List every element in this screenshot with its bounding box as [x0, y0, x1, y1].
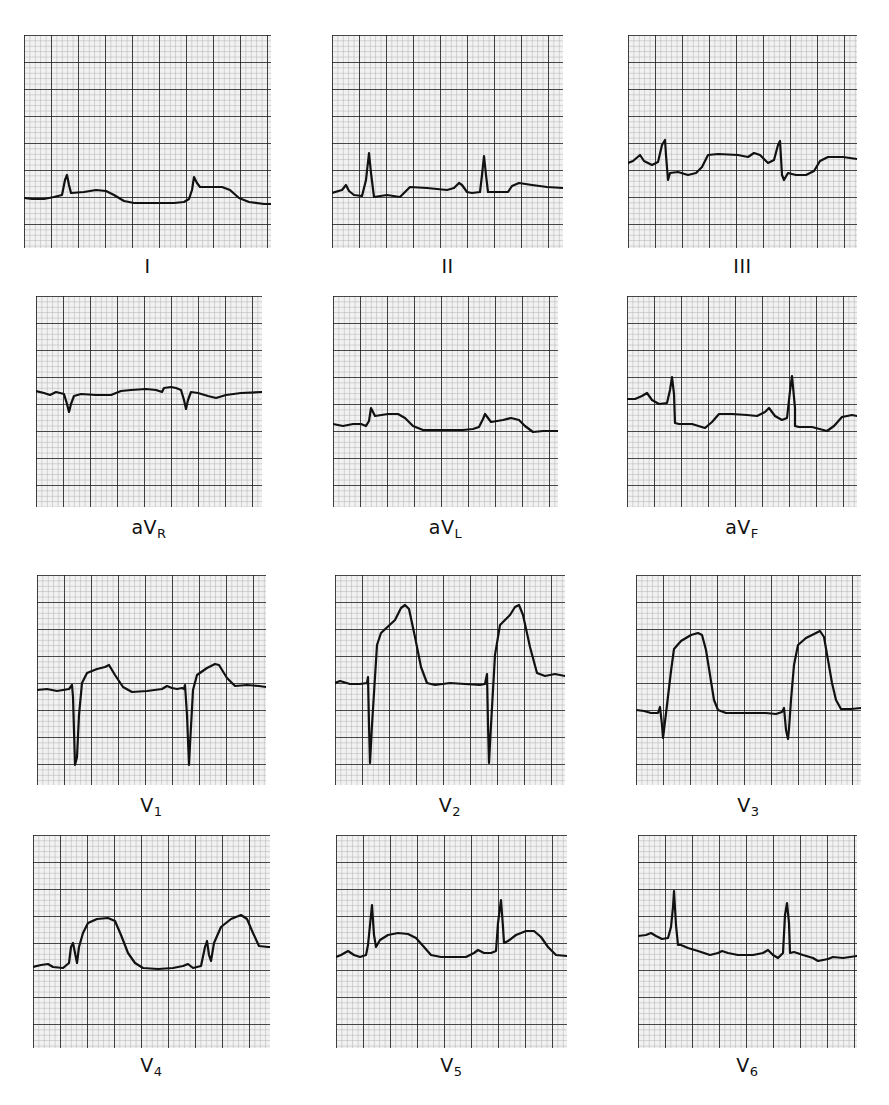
grid-lines	[37, 575, 266, 785]
lead-label-v4: V4	[33, 1054, 270, 1079]
lead-label-i: I	[24, 255, 271, 277]
grid-lines	[332, 35, 563, 248]
grid-lines	[638, 835, 857, 1048]
ecg-grid-paper	[627, 296, 857, 507]
lead-panel-i	[24, 35, 271, 248]
ecg-grid-paper	[333, 296, 558, 507]
grid-lines	[333, 296, 558, 507]
lead-panel-v2	[335, 575, 565, 785]
ecg-grid-paper	[36, 296, 262, 507]
lead-label-v1: V1	[37, 794, 266, 819]
ecg-grid-paper	[636, 575, 861, 785]
lead-panel-iii	[628, 35, 857, 248]
lead-label-ii: II	[332, 255, 563, 277]
lead-panel-ii	[332, 35, 563, 248]
lead-panel-v3	[636, 575, 861, 785]
grid-lines	[36, 296, 262, 507]
grid-lines	[627, 296, 857, 507]
lead-label-iii: III	[628, 255, 857, 277]
lead-label-avr: aVR	[36, 516, 262, 541]
lead-label-v2: V2	[335, 794, 565, 819]
ecg-grid-paper	[24, 35, 271, 248]
ecg-grid-paper	[638, 835, 857, 1048]
grid-lines	[628, 35, 857, 248]
ecg-grid-paper	[33, 835, 270, 1048]
lead-panel-v1	[37, 575, 266, 785]
grid-lines	[24, 35, 271, 248]
lead-panel-v5	[336, 835, 567, 1048]
ecg-grid-paper	[332, 35, 563, 248]
lead-panel-avf	[627, 296, 857, 507]
lead-label-v5: V5	[336, 1054, 567, 1079]
grid-lines	[336, 835, 567, 1048]
ecg-grid-paper	[335, 575, 565, 785]
lead-panel-v4	[33, 835, 270, 1048]
lead-panel-v6	[638, 835, 857, 1048]
lead-label-avl: aVL	[333, 516, 558, 541]
lead-panel-avl	[333, 296, 558, 507]
grid-lines	[33, 835, 270, 1048]
lead-label-v3: V3	[636, 794, 861, 819]
lead-panel-avr	[36, 296, 262, 507]
lead-label-v6: V6	[638, 1054, 857, 1079]
lead-label-avf: aVF	[627, 516, 857, 541]
ecg-grid-paper	[37, 575, 266, 785]
ecg-grid-paper	[628, 35, 857, 248]
ecg-grid-paper	[336, 835, 567, 1048]
